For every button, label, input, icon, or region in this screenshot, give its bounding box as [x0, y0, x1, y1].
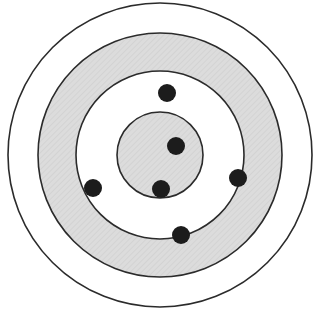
inner-boundary-right-point	[229, 169, 247, 187]
ring-group	[8, 3, 312, 307]
concentric-target-diagram	[0, 0, 323, 321]
figure-root	[0, 0, 323, 321]
inner-boundary-top-point	[158, 84, 176, 102]
center-point	[167, 137, 185, 155]
core-boundary-point	[152, 180, 170, 198]
inner-boundary-bottom-point	[172, 226, 190, 244]
inner-boundary-left-point	[84, 179, 102, 197]
